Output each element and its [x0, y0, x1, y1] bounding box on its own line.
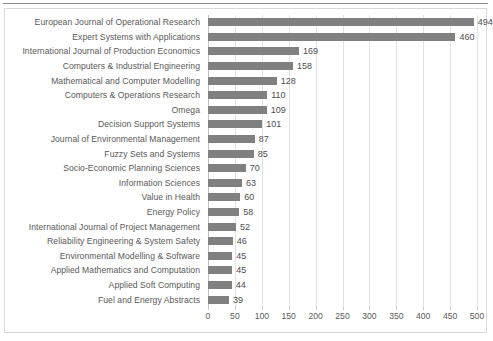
- tick-mark-100: [262, 307, 263, 310]
- bar-row: 85: [208, 146, 477, 161]
- bar: 63: [208, 179, 242, 187]
- bar-value-label: 158: [297, 62, 312, 71]
- tick-label-100: 100: [255, 311, 269, 321]
- bar: 60: [208, 193, 240, 201]
- category-label: Socio-Economic Planning Sciences: [5, 161, 204, 176]
- bar: 101: [208, 120, 262, 128]
- bar-value-label: 46: [237, 237, 247, 246]
- gridline-500: [477, 15, 478, 307]
- bar-value-label: 169: [303, 47, 318, 56]
- category-label: Omega: [5, 103, 204, 118]
- category-label: Fuel and Energy Abstracts: [5, 292, 204, 307]
- bar-row: 39: [208, 292, 477, 307]
- tick-label-200: 200: [308, 311, 322, 321]
- bar-value-label: 60: [244, 193, 254, 202]
- bar-value-label: 45: [236, 266, 246, 275]
- tick-mark-0: [208, 307, 209, 310]
- bar-row: 70: [208, 161, 477, 176]
- tick-label-50: 50: [230, 311, 240, 321]
- category-axis-labels: European Journal of Operational Research…: [5, 15, 204, 307]
- bar: 70: [208, 164, 246, 172]
- bar-value-label: 460: [459, 32, 474, 41]
- bar-row: 44: [208, 278, 477, 293]
- category-label: International Journal of Production Econ…: [5, 44, 204, 59]
- bar-row: 60: [208, 190, 477, 205]
- bar-value-label: 109: [271, 105, 286, 114]
- category-label: Decision Support Systems: [5, 117, 204, 132]
- tick-label-350: 350: [389, 311, 403, 321]
- bar-row: 46: [208, 234, 477, 249]
- bar-value-label: 128: [281, 76, 296, 85]
- tick-label-450: 450: [443, 311, 457, 321]
- bar-row: 63: [208, 176, 477, 191]
- bar-value-label: 87: [259, 135, 269, 144]
- bar-row: 101: [208, 117, 477, 132]
- category-label: Fuzzy Sets and Systems: [5, 146, 204, 161]
- bar: 44: [208, 281, 232, 289]
- bar-row: 45: [208, 263, 477, 278]
- plot-area: 4944601691581281101091018785706360585246…: [208, 15, 477, 307]
- bar: 169: [208, 47, 299, 55]
- bar-value-label: 52: [240, 222, 250, 231]
- bar-value-label: 63: [246, 178, 256, 187]
- category-label: Computers & Industrial Engineering: [5, 59, 204, 74]
- bar: 158: [208, 62, 293, 70]
- tick-mark-300: [369, 307, 370, 310]
- bar: 45: [208, 252, 232, 260]
- bar-value-label: 85: [258, 149, 268, 158]
- tick-mark-150: [289, 307, 290, 310]
- tick-label-400: 400: [416, 311, 430, 321]
- bar-row: 158: [208, 59, 477, 74]
- tick-mark-400: [423, 307, 424, 310]
- chart-figure-frame: European Journal of Operational Research…: [4, 8, 487, 333]
- category-label: Mathematical and Computer Modelling: [5, 73, 204, 88]
- tick-mark-50: [235, 307, 236, 310]
- bar-row: 460: [208, 30, 477, 45]
- tick-label-500: 500: [470, 311, 484, 321]
- bar: 494: [208, 18, 474, 26]
- bar: 85: [208, 150, 254, 158]
- bar: 52: [208, 223, 236, 231]
- tick-mark-450: [450, 307, 451, 310]
- bar-row: 110: [208, 88, 477, 103]
- category-label: Reliability Engineering & System Safety: [5, 234, 204, 249]
- bar-row: 52: [208, 219, 477, 234]
- category-label: Information Sciences: [5, 176, 204, 191]
- category-label: Expert Systems with Applications: [5, 30, 204, 45]
- bar: 128: [208, 77, 277, 85]
- bar-row: 169: [208, 44, 477, 59]
- bar: 110: [208, 91, 267, 99]
- category-label: Applied Mathematics and Computation: [5, 263, 204, 278]
- tick-mark-350: [396, 307, 397, 310]
- category-label: Journal of Environmental Management: [5, 132, 204, 147]
- bar-value-label: 110: [271, 91, 285, 100]
- bar: 58: [208, 208, 239, 216]
- bar-value-label: 39: [233, 295, 243, 304]
- bar-value-label: 494: [478, 18, 493, 27]
- tick-mark-200: [316, 307, 317, 310]
- bar: 46: [208, 237, 233, 245]
- tick-label-300: 300: [362, 311, 376, 321]
- bar-value-label: 44: [236, 281, 246, 290]
- tick-label-150: 150: [282, 311, 296, 321]
- tick-mark-250: [343, 307, 344, 310]
- bar: 45: [208, 266, 232, 274]
- bar: 39: [208, 296, 229, 304]
- bar: 87: [208, 135, 255, 143]
- bar-value-label: 70: [250, 164, 260, 173]
- category-label: Environmental Modelling & Software: [5, 249, 204, 264]
- bar-value-label: 45: [236, 251, 246, 260]
- bar-row: 45: [208, 249, 477, 264]
- tick-label-250: 250: [335, 311, 349, 321]
- bar-value-label: 58: [243, 208, 253, 217]
- category-label: Energy Policy: [5, 205, 204, 220]
- category-label: Value in Health: [5, 190, 204, 205]
- horizontal-bar-chart: European Journal of Operational Research…: [5, 9, 488, 334]
- bar-row: 87: [208, 132, 477, 147]
- category-label: Applied Soft Computing: [5, 278, 204, 293]
- bar-row: 58: [208, 205, 477, 220]
- tick-mark-500: [477, 307, 478, 310]
- bar: 109: [208, 106, 267, 114]
- bar-series: 4944601691581281101091018785706360585246…: [208, 15, 477, 307]
- value-axis: 050100150200250300350400450500: [208, 309, 477, 325]
